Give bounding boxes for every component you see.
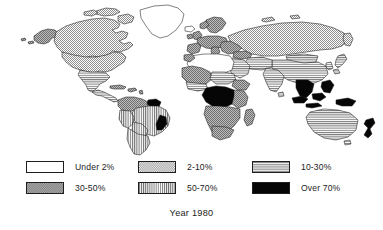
region-tasmania (344, 140, 351, 145)
region-peru (119, 110, 134, 128)
region-korea (326, 62, 333, 70)
region-canada (54, 18, 133, 58)
legend-swatch-under-2 (26, 161, 64, 173)
world-map-svg (0, 0, 383, 158)
region-cuba (110, 85, 126, 89)
region-greenland (140, 5, 184, 38)
region-horn-of-africa (232, 80, 250, 90)
legend-swatch-10-30 (252, 161, 290, 173)
legend-swatch-30-50 (26, 182, 64, 194)
legend-label-over-70: Over 70% (301, 183, 340, 193)
region-mexico (78, 70, 110, 92)
region-japan-south (333, 69, 340, 74)
region-east-africa (232, 90, 248, 108)
legend-item-under-2: Under 2% (26, 160, 114, 174)
region-indochina (296, 80, 314, 98)
region-philippines (321, 80, 334, 93)
legend-item-10-30: 10-30% (252, 160, 340, 174)
region-japan (335, 54, 347, 68)
region-baffin (118, 14, 134, 24)
legend-item-30-50: 30-50% (26, 181, 114, 195)
legend-swatch-2-10 (138, 161, 176, 173)
legend-item-50-70: 50-70% (138, 181, 218, 195)
legend-label-30-50: 30-50% (75, 183, 106, 193)
region-central-america (92, 90, 118, 102)
legend-column-2: 2-10% 50-70% (138, 160, 218, 202)
legend-swatch-over-70 (252, 182, 290, 194)
region-aleutians (21, 38, 26, 41)
legend-column-3: 10-30% Over 70% (252, 160, 340, 202)
map-canvas (0, 0, 383, 158)
region-iceland (185, 26, 195, 32)
region-papua-new-guinea (336, 98, 356, 106)
legend-label-under-2: Under 2% (75, 162, 114, 172)
figure-caption: Year 1980 (0, 208, 383, 218)
region-ireland (187, 34, 193, 39)
region-new-zealand (364, 118, 375, 138)
region-lesser-antilles (139, 90, 143, 94)
region-novaya-zemlya (262, 17, 275, 22)
world-map-figure: Under 2% 30-50% 2-10% (0, 0, 383, 230)
legend-label-10-30: 10-30% (301, 162, 332, 172)
region-iberia (187, 43, 201, 54)
region-sri-lanka (278, 92, 284, 97)
region-hispaniola (128, 88, 137, 92)
legend-item-2-10: 2-10% (138, 160, 218, 174)
region-soviet-union (228, 22, 348, 56)
region-central-africa (202, 86, 236, 108)
region-sahel (210, 72, 236, 84)
region-australia (306, 109, 358, 140)
legend-column-1: Under 2% 30-50% (26, 160, 114, 202)
region-indonesia-borneo (312, 93, 326, 101)
region-kamchatka (343, 33, 353, 46)
legend-label-2-10: 2-10% (187, 162, 213, 172)
region-madagascar (244, 109, 255, 126)
legend-swatch-50-70 (138, 182, 176, 194)
legend-item-over-70: Over 70% (252, 181, 340, 195)
region-aleutians-2 (28, 41, 34, 44)
region-arctic-islands (96, 8, 120, 16)
region-indonesia-java (306, 103, 322, 108)
region-severnaya-zemlya (290, 15, 300, 19)
legend-label-50-70: 50-70% (187, 183, 218, 193)
legend: Under 2% 30-50% 2-10% (0, 160, 383, 206)
